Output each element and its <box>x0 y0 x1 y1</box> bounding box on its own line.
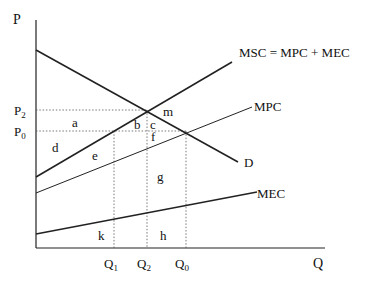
area-g: g <box>157 169 164 184</box>
q1-label: Q1 <box>104 256 118 273</box>
demand-curve <box>36 50 238 162</box>
area-k: k <box>98 228 105 243</box>
p0-label: P0 <box>14 124 26 141</box>
q2-label: Q2 <box>137 256 151 273</box>
area-m: m <box>163 104 173 119</box>
msc-label: MSC = MPC + MEC <box>239 45 350 60</box>
mec-label: MEC <box>257 186 285 201</box>
area-a: a <box>72 115 78 130</box>
mec-curve <box>36 192 257 234</box>
area-e: e <box>92 148 98 163</box>
area-d: d <box>52 140 59 155</box>
area-f: f <box>151 129 156 144</box>
mpc-label: MPC <box>254 99 281 114</box>
area-b: b <box>134 117 141 132</box>
y-axis-label: P <box>13 12 21 27</box>
externality-diagram: P Q MSC = MPC + MEC MPC D MEC P2 P0 Q1 Q… <box>0 0 368 286</box>
mpc-curve <box>36 107 252 193</box>
x-axis-label: Q <box>313 256 323 271</box>
q0-label: Q0 <box>175 256 189 273</box>
area-h: h <box>160 228 167 243</box>
demand-label: D <box>244 155 253 170</box>
p2-label: P2 <box>14 103 26 120</box>
